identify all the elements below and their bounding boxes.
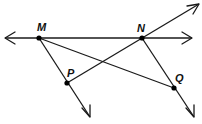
point-m	[36, 35, 41, 40]
label-p: P	[67, 67, 75, 79]
segment-mq	[39, 38, 174, 88]
geometry-diagram: M N P Q	[0, 0, 202, 124]
ray-mp	[39, 38, 90, 117]
line-mn	[5, 32, 192, 44]
point-n	[139, 35, 144, 40]
point-p	[64, 80, 69, 85]
ray-nq	[142, 38, 194, 117]
label-n: N	[137, 22, 146, 34]
point-q	[171, 85, 176, 90]
label-q: Q	[175, 72, 184, 84]
label-m: M	[37, 21, 47, 33]
